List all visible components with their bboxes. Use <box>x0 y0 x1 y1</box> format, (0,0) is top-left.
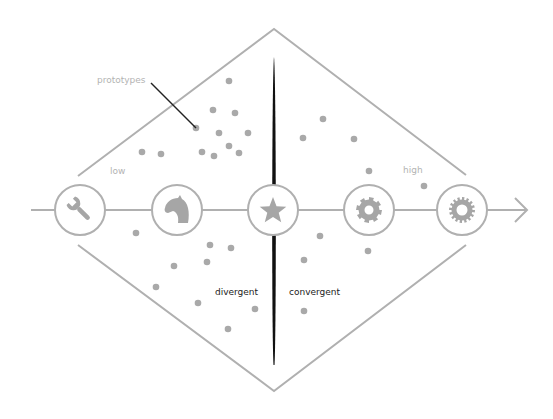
prototype-dot <box>204 259 211 266</box>
convergent-label: convergent <box>289 288 340 297</box>
stage-production <box>437 185 487 235</box>
prototype-dot <box>366 168 373 175</box>
prototype-dot <box>158 151 165 158</box>
stage-idea <box>152 185 202 235</box>
prototype-dot <box>232 110 239 117</box>
prototypes-leader-line <box>151 83 196 128</box>
prototypes-label: prototypes <box>97 76 146 85</box>
prototype-dot <box>171 263 178 270</box>
stage-selection <box>248 185 298 235</box>
prototype-dot <box>421 183 428 190</box>
prototype-dot <box>301 308 308 315</box>
prototype-dot <box>228 245 235 252</box>
prototype-dot <box>236 150 243 157</box>
diamond-upper-edge <box>78 29 466 176</box>
prototype-dot <box>226 78 233 85</box>
prototype-dot <box>252 306 259 313</box>
prototype-dot <box>317 233 324 240</box>
diamond-diagram <box>0 0 553 419</box>
divergent-label: divergent <box>215 288 258 297</box>
prototype-dot <box>153 284 160 291</box>
diagram-stage: prototypes low high divergent convergent <box>0 0 553 419</box>
low-label: low <box>110 167 125 176</box>
prototype-dot <box>225 326 232 333</box>
stage-circle <box>344 185 394 235</box>
prototype-dot <box>133 230 140 237</box>
prototype-dot <box>210 107 217 114</box>
prototype-dot <box>245 130 252 137</box>
prototype-dot <box>195 300 202 307</box>
high-label: high <box>403 166 423 175</box>
prototype-dot <box>365 248 372 255</box>
stage-tools <box>55 185 105 235</box>
prototype-dot <box>351 136 358 143</box>
prototype-dot <box>226 143 233 150</box>
prototype-dot <box>139 149 146 156</box>
prototype-dot <box>300 135 307 142</box>
stage-circle <box>437 185 487 235</box>
prototype-dot <box>320 116 327 123</box>
prototype-dot <box>216 130 223 137</box>
prototype-dot <box>301 257 308 264</box>
stage-engineering <box>344 185 394 235</box>
prototype-dot <box>211 153 218 160</box>
prototype-dot <box>207 242 214 249</box>
diamond-lower-edge <box>78 245 466 391</box>
prototype-dot <box>199 149 206 156</box>
